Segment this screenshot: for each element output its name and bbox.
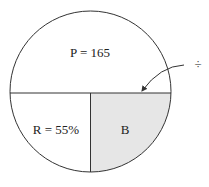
shaded-region-b — [91, 93, 181, 183]
percent-circle-diagram: P = 165 R = 55% B ÷ — [0, 0, 209, 187]
label-p: P = 165 — [70, 45, 110, 60]
label-r: R = 55% — [33, 122, 80, 137]
divide-operator-icon: ÷ — [194, 56, 201, 71]
arrow-icon — [142, 65, 184, 91]
label-b: B — [121, 122, 130, 137]
diagram-svg: P = 165 R = 55% B ÷ — [0, 0, 209, 187]
